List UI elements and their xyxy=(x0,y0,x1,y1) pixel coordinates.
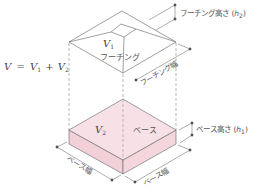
base-height-dimension xyxy=(179,122,193,143)
base-width-label-left: ベース幅 xyxy=(65,153,95,176)
footing-outline xyxy=(69,11,176,73)
base-name-label: ベース xyxy=(133,126,157,135)
footing-width-label: フーチング幅 xyxy=(138,58,180,88)
footing-height-dimension xyxy=(149,4,176,30)
footing-height-label: フーチング高さ (h2) xyxy=(180,8,246,19)
footing-name-label: フーチング xyxy=(100,52,140,62)
base-height-label: ベース高さ (h1) xyxy=(196,124,248,135)
footing-block xyxy=(69,11,176,73)
footing-diagram: V = V1 + V2 V1 フーチング フーチング高さ (h2) フーチング幅… xyxy=(0,0,264,194)
volume-formula: V = V1 + V2 xyxy=(4,61,69,74)
